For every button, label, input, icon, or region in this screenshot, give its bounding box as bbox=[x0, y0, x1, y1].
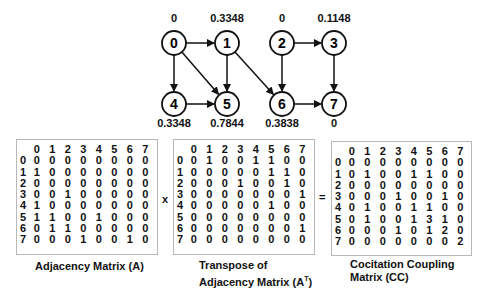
matrix-cell: 1 bbox=[248, 155, 264, 166]
svg-text:0: 0 bbox=[170, 35, 178, 51]
matrix-cell: 0 bbox=[344, 157, 360, 168]
matrix-cell: 0 bbox=[45, 234, 61, 245]
svg-text:6: 6 bbox=[278, 96, 286, 112]
matrix-cell: 0 bbox=[279, 234, 295, 245]
matrix-cell: 0 bbox=[107, 234, 123, 245]
transpose-matrix-caption: Transpose of Adjacency Matrix (AT) bbox=[199, 259, 312, 289]
node-score-2: 0 bbox=[252, 12, 312, 24]
node-7: 7 bbox=[322, 92, 346, 116]
row-header: 0 bbox=[332, 157, 344, 168]
matrix-cell: 0 bbox=[344, 236, 360, 247]
node-4: 4 bbox=[162, 92, 186, 116]
cocitation-matrix-caption: Cocitation Coupling Matrix (CC) bbox=[350, 258, 454, 284]
adjacency-matrix-table: 0123456700000000011000000020000000030010… bbox=[17, 144, 153, 246]
svg-text:4: 4 bbox=[170, 96, 178, 112]
node-score-4: 0.3348 bbox=[144, 117, 204, 129]
matrix-cell: 0 bbox=[375, 157, 391, 168]
matrix-cell: 0 bbox=[248, 234, 264, 245]
matrix-row: 700000002 bbox=[332, 236, 468, 247]
matrix-cell: 0 bbox=[107, 155, 123, 166]
matrix-cell: 0 bbox=[29, 155, 45, 166]
node-score-1: 0.3348 bbox=[197, 12, 257, 24]
matrix-cell: 0 bbox=[29, 234, 45, 245]
matrix-cell: 0 bbox=[453, 157, 469, 168]
matrix-cell: 0 bbox=[202, 234, 218, 245]
matrix-row: 700000000 bbox=[174, 234, 310, 245]
node-2: 2 bbox=[270, 31, 294, 55]
row-header: 0 bbox=[174, 155, 186, 166]
matrix-cell: 0 bbox=[375, 236, 391, 247]
matrix-cell: 0 bbox=[186, 234, 202, 245]
matrix-cell: 0 bbox=[91, 234, 107, 245]
node-5: 5 bbox=[215, 92, 239, 116]
row-header: 7 bbox=[17, 234, 29, 245]
node-6: 6 bbox=[270, 92, 294, 116]
matrix-cell: 0 bbox=[295, 234, 311, 245]
matrix-cell: 0 bbox=[76, 155, 92, 166]
svg-text:7: 7 bbox=[330, 96, 338, 112]
matrix-cell: 0 bbox=[60, 234, 76, 245]
node-0: 0 bbox=[162, 31, 186, 55]
matrix-cell: 0 bbox=[60, 155, 76, 166]
transpose-matrix-box: 0123456700100110010000011020001001030000… bbox=[173, 139, 315, 255]
node-3: 3 bbox=[322, 31, 346, 55]
matrix-cell: 0 bbox=[217, 234, 233, 245]
matrix-cell: 0 bbox=[422, 157, 438, 168]
row-header: 7 bbox=[174, 234, 186, 245]
matrix-row: 700010010 bbox=[17, 234, 153, 245]
matrix-cell: 0 bbox=[360, 157, 376, 168]
matrix-cell: 0 bbox=[138, 234, 154, 245]
matrix-row: 000000000 bbox=[17, 155, 153, 166]
node-score-5: 0.7844 bbox=[197, 117, 257, 129]
node-score-0: 0 bbox=[144, 12, 204, 24]
matrix-cell: 0 bbox=[422, 236, 438, 247]
matrix-cell: 0 bbox=[295, 155, 311, 166]
row-header: 0 bbox=[17, 155, 29, 166]
svg-text:2: 2 bbox=[278, 35, 286, 51]
matrix-cell: 0 bbox=[279, 155, 295, 166]
node-score-6: 0.3838 bbox=[252, 117, 312, 129]
node-score-7: 0 bbox=[304, 117, 364, 129]
edge-1-6 bbox=[235, 52, 273, 94]
transpose-matrix-table: 0123456700100110010000011020001001030000… bbox=[174, 144, 310, 246]
matrix-cell: 0 bbox=[437, 157, 453, 168]
multiply-operator: x bbox=[162, 193, 168, 205]
svg-text:1: 1 bbox=[223, 35, 231, 51]
matrix-cell: 0 bbox=[186, 155, 202, 166]
adjacency-matrix-box: 0123456700000000011000000020000000030010… bbox=[16, 139, 158, 255]
matrix-cell: 0 bbox=[45, 155, 61, 166]
matrix-cell: 0 bbox=[437, 236, 453, 247]
matrix-cell: 2 bbox=[453, 236, 469, 247]
matrix-row: 000000000 bbox=[332, 157, 468, 168]
svg-text:5: 5 bbox=[223, 96, 231, 112]
cocitation-matrix-table: 0123456700000000010100110020000000030001… bbox=[332, 146, 468, 248]
adjacency-matrix-caption: Adjacency Matrix (A) bbox=[35, 260, 144, 273]
matrix-cell: 0 bbox=[406, 157, 422, 168]
edge-0-5 bbox=[182, 52, 219, 94]
row-header: 7 bbox=[332, 236, 344, 247]
matrix-row: 001001100 bbox=[174, 155, 310, 166]
node-score-3: 0.1148 bbox=[304, 12, 364, 24]
matrix-cell: 0 bbox=[391, 157, 407, 168]
matrix-cell: 0 bbox=[217, 155, 233, 166]
equals-operator: = bbox=[319, 191, 325, 203]
matrix-cell: 0 bbox=[233, 234, 249, 245]
matrix-cell: 1 bbox=[264, 155, 280, 166]
cocitation-matrix-box: 0123456700000000010100110020000000030001… bbox=[331, 141, 472, 256]
matrix-cell: 1 bbox=[76, 234, 92, 245]
matrix-cell: 0 bbox=[138, 155, 154, 166]
matrix-cell: 0 bbox=[91, 155, 107, 166]
matrix-cell: 0 bbox=[264, 234, 280, 245]
matrix-cell: 0 bbox=[360, 236, 376, 247]
node-1: 1 bbox=[215, 31, 239, 55]
matrix-cell: 0 bbox=[233, 155, 249, 166]
svg-text:3: 3 bbox=[330, 35, 338, 51]
matrix-cell: 1 bbox=[202, 155, 218, 166]
matrix-cell: 0 bbox=[406, 236, 422, 247]
matrix-cell: 0 bbox=[122, 155, 138, 166]
matrix-cell: 1 bbox=[122, 234, 138, 245]
matrix-cell: 0 bbox=[391, 236, 407, 247]
